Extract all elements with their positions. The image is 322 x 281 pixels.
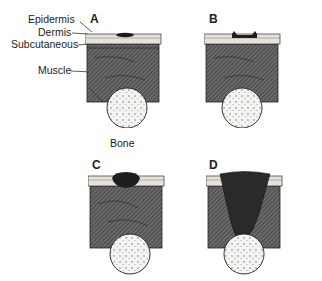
panel-letter-a: A [90,12,99,26]
panel-d-illustration [206,170,284,275]
label-bone: Bone [110,138,135,149]
panel-c-illustration [88,170,166,275]
panel-letter-b: B [209,12,218,26]
panel-b-illustration [204,28,282,128]
panel-a-illustration [85,28,163,128]
